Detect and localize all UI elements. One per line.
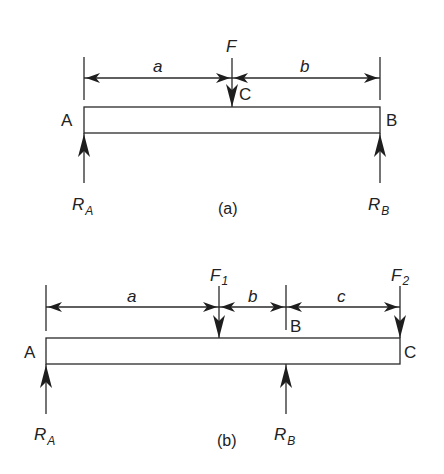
figure-a: F a b C A B RA RB (a) [61, 37, 397, 218]
dim-label-b: b [300, 57, 309, 76]
force-label: F [226, 37, 238, 56]
force-label-f2: F2 [391, 266, 409, 288]
reaction-label-rb: RB [274, 425, 295, 448]
dim-label-c: c [337, 287, 346, 306]
dim-label-a: a [153, 57, 162, 76]
beam-a [84, 107, 380, 133]
reaction-label-ra: RA [72, 195, 93, 218]
point-label-b: B [386, 111, 397, 130]
point-label-a: A [24, 343, 36, 362]
caption-b: (b) [217, 432, 237, 449]
force-label-f1: F1 [210, 266, 228, 288]
figure-b: F1 F2 a b c B A C RA RB (b) [24, 266, 416, 449]
point-label-b: B [290, 317, 301, 336]
reaction-label-rb: RB [368, 195, 389, 218]
beam-diagrams: F a b C A B RA RB (a) F1 [0, 0, 444, 474]
dim-label-b: b [248, 287, 257, 306]
caption-a: (a) [218, 200, 238, 217]
point-label-c: C [404, 343, 416, 362]
point-label-a: A [61, 111, 73, 130]
beam-b [46, 338, 400, 364]
reaction-label-ra: RA [34, 425, 55, 448]
point-label-c: C [239, 85, 251, 104]
dim-label-a: a [127, 287, 136, 306]
